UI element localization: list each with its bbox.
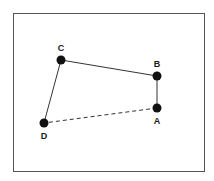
point-d (40, 119, 49, 128)
point-c (57, 56, 66, 65)
edge-c-b (61, 60, 157, 76)
diagram-frame (14, 14, 205, 172)
diagram-canvas: A B C D (0, 0, 214, 181)
label-a: A (154, 116, 161, 126)
edge-a-d-dashed (44, 108, 157, 123)
label-c: C (58, 43, 65, 53)
edge-d-c (44, 60, 61, 123)
label-b: B (154, 59, 161, 69)
point-b (153, 72, 162, 81)
label-d: D (41, 131, 48, 141)
point-a (153, 104, 162, 113)
